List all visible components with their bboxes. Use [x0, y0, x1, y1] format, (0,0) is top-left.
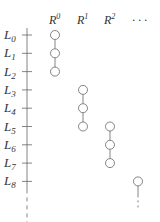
level-label: L0 [3, 27, 16, 44]
level-label: L5 [3, 119, 16, 136]
level-axis [22, 28, 32, 222]
region-node [51, 67, 60, 76]
column-headers: R0R1R2· · · [48, 12, 147, 27]
region-node [51, 31, 60, 40]
node-group [79, 85, 88, 131]
region-node [106, 122, 115, 131]
level-label: L7 [3, 155, 16, 172]
region-node [106, 159, 115, 168]
level-label: L6 [3, 137, 16, 154]
region-node [79, 104, 88, 113]
region-node [51, 49, 60, 58]
level-region-diagram: L0L1L2L3L4L5L6L7L8 R0R1R2· · · [0, 0, 160, 222]
node-groups [51, 31, 143, 208]
level-label: L4 [3, 100, 16, 117]
region-node [79, 122, 88, 131]
region-header: R0 [48, 12, 60, 27]
node-group [51, 31, 60, 77]
level-label: L3 [3, 82, 16, 99]
row-labels: L0L1L2L3L4L5L6L7L8 [3, 27, 16, 190]
region-node [79, 85, 88, 94]
level-label: L1 [3, 45, 16, 62]
level-label: L2 [3, 64, 16, 81]
node-group [134, 177, 143, 208]
region-header: R1 [76, 12, 88, 27]
region-node [134, 177, 143, 186]
node-group [106, 122, 115, 168]
level-label: L8 [3, 173, 16, 190]
region-node [106, 140, 115, 149]
region-header: R2 [103, 12, 115, 27]
ellipsis-header: · · · [132, 13, 147, 27]
